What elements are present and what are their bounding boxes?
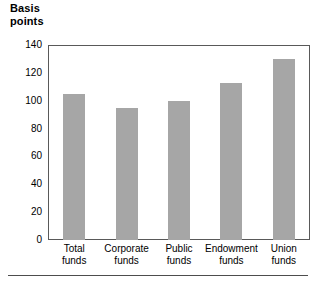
y-axis-tick-label: 60 xyxy=(31,151,42,161)
y-axis-tick-label: 20 xyxy=(31,207,42,217)
bar xyxy=(63,94,85,240)
bar xyxy=(220,83,242,240)
bar-slot xyxy=(205,45,257,240)
x-axis-tick-label: Public funds xyxy=(165,243,192,267)
bar xyxy=(116,108,138,240)
bar-slot xyxy=(100,45,152,240)
bottom-divider xyxy=(8,275,308,276)
bar-slot xyxy=(258,45,310,240)
chart-title: Basis points xyxy=(10,2,70,28)
bar-chart: Basis points 020406080100120140 Total fu… xyxy=(0,0,319,289)
x-axis-tick-label: Corporate funds xyxy=(104,243,148,267)
bar xyxy=(168,101,190,240)
y-axis-tick-label: 40 xyxy=(31,179,42,189)
y-axis-tick-label: 80 xyxy=(31,124,42,134)
bar-slot xyxy=(153,45,205,240)
bar xyxy=(273,59,295,240)
y-axis-tick-label: 100 xyxy=(25,96,42,106)
bars-layer xyxy=(48,45,310,240)
y-axis: 020406080100120140 xyxy=(0,45,48,240)
bar-slot xyxy=(48,45,100,240)
x-axis-tick-label: Union funds xyxy=(271,243,297,267)
y-axis-tick-label: 0 xyxy=(36,235,42,245)
x-axis-tick-label: Total funds xyxy=(62,243,86,267)
x-axis-tick-label: Endowment funds xyxy=(205,243,258,267)
y-axis-tick-label: 140 xyxy=(25,40,42,50)
x-axis-labels: Total fundsCorporate fundsPublic fundsEn… xyxy=(48,243,310,271)
y-axis-tick-label: 120 xyxy=(25,68,42,78)
